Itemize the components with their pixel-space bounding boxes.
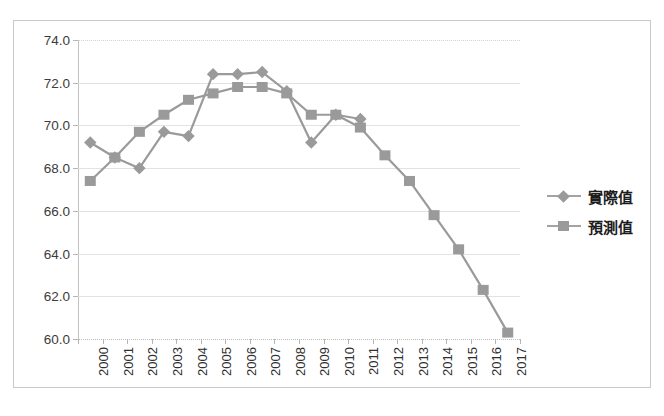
data-point-square [355, 123, 366, 133]
x-tick-mark [446, 339, 447, 344]
y-axis-tick-label: 74.0 [44, 33, 70, 48]
x-tick-mark [152, 339, 153, 344]
data-point-square [281, 88, 292, 98]
x-tick-mark [103, 339, 104, 344]
legend-item-predicted[interactable]: 預測值 [547, 211, 647, 241]
x-axis-tick-label: 2010 [342, 347, 357, 376]
data-point-square [208, 88, 219, 98]
y-tick-mark [73, 125, 78, 126]
data-point-square [257, 82, 268, 92]
legend-label-actual: 實際值 [588, 186, 633, 207]
x-axis-tick-label: 2004 [195, 347, 210, 376]
x-axis-tick-label: 2009 [317, 347, 332, 376]
x-axis-tick-label: 2013 [416, 347, 431, 376]
data-point-square [502, 328, 513, 338]
data-point-square [429, 210, 440, 220]
x-tick-mark [127, 339, 128, 344]
x-axis-tick-label: 2003 [170, 347, 185, 376]
square-marker-icon [547, 219, 581, 233]
data-point-square [453, 244, 464, 254]
x-axis-tick-label: 2005 [219, 347, 234, 376]
data-point-square [85, 176, 96, 186]
x-tick-mark [201, 339, 202, 344]
y-tick-mark [73, 254, 78, 255]
x-tick-mark [348, 339, 349, 344]
data-point-diamond [158, 126, 170, 138]
y-axis-tick-label: 68.0 [44, 161, 70, 176]
y-axis-tick-label: 62.0 [44, 289, 70, 304]
data-point-diamond [182, 130, 194, 142]
y-axis-tick-label: 64.0 [44, 246, 70, 261]
x-axis-tick-label: 2016 [489, 347, 504, 376]
x-tick-mark [324, 339, 325, 344]
x-tick-mark [471, 339, 472, 344]
x-tick-mark [274, 339, 275, 344]
chart-frame: 74.072.070.068.066.064.062.060.0 2000200… [13, 20, 651, 388]
chart-legend: 實際值 預測值 [547, 181, 647, 241]
data-point-square [134, 127, 145, 137]
series-layer [78, 40, 520, 339]
x-tick-mark [225, 339, 226, 344]
x-tick-mark [373, 339, 374, 344]
x-tick-mark [299, 339, 300, 344]
series-line [90, 87, 507, 333]
x-axis-tick-label: 2014 [440, 347, 455, 376]
y-axis-labels: 74.072.070.068.066.064.062.060.0 [14, 40, 70, 339]
y-tick-mark [73, 83, 78, 84]
x-axis-tick-label: 2017 [514, 347, 529, 376]
y-axis-tick-label: 66.0 [44, 203, 70, 218]
x-axis-labels: 2000200120022003200420052006200720082009… [78, 347, 520, 393]
y-tick-mark [73, 211, 78, 212]
x-axis-tick-label: 2006 [244, 347, 259, 376]
x-axis-tick-label: 2008 [293, 347, 308, 376]
diamond-marker-icon [547, 189, 581, 203]
x-tick-mark [78, 339, 79, 344]
data-point-diamond [207, 68, 219, 80]
data-point-square [232, 82, 243, 92]
y-tick-mark [73, 168, 78, 169]
y-axis-tick-label: 72.0 [44, 75, 70, 90]
data-point-diamond [231, 68, 243, 80]
data-point-square [306, 110, 317, 120]
x-axis-tick-label: 2015 [465, 347, 480, 376]
x-axis-tick-label: 2007 [268, 347, 283, 376]
y-axis-tick-label: 70.0 [44, 118, 70, 133]
data-point-square [158, 110, 169, 120]
data-point-square [330, 110, 341, 120]
x-axis-tick-label: 2012 [391, 347, 406, 376]
x-axis-tick-label: 2002 [145, 347, 160, 376]
data-point-square [478, 285, 489, 295]
data-point-diamond [133, 162, 145, 174]
y-tick-mark [73, 40, 78, 41]
plot-area [78, 40, 520, 339]
x-axis-ticks [78, 339, 520, 345]
x-tick-mark [495, 339, 496, 344]
x-axis-tick-label: 2001 [121, 347, 136, 376]
legend-label-predicted: 預測值 [588, 216, 633, 237]
x-tick-mark [422, 339, 423, 344]
x-axis-tick-label: 2000 [96, 347, 111, 376]
x-tick-mark [250, 339, 251, 344]
data-point-diamond [84, 136, 96, 148]
legend-item-actual[interactable]: 實際值 [547, 181, 647, 211]
x-tick-mark [176, 339, 177, 344]
x-tick-mark [397, 339, 398, 344]
data-point-square [183, 95, 194, 105]
y-tick-mark [73, 296, 78, 297]
x-axis-tick-label: 2011 [366, 347, 381, 375]
series-line [90, 72, 360, 168]
data-point-square [379, 150, 390, 160]
data-point-square [109, 152, 120, 162]
x-tick-mark [520, 339, 521, 344]
y-axis-tick-label: 60.0 [44, 332, 70, 347]
data-point-square [404, 176, 415, 186]
